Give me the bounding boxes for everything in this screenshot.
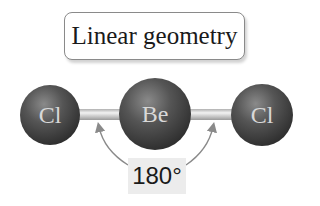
atom-be-center: Be	[119, 78, 191, 150]
bond-right	[186, 109, 236, 120]
bond-angle-label: 180°	[128, 158, 186, 194]
geometry-title-label: Linear geometry	[64, 12, 245, 60]
atom-cl-right: Cl	[231, 84, 293, 146]
angle-arrow-right-icon	[186, 127, 213, 165]
atom-be-label: Be	[142, 101, 169, 127]
angle-arrow-left-icon	[99, 127, 128, 165]
atom-cl-right-label: Cl	[251, 102, 274, 128]
bond-left	[76, 109, 126, 120]
atom-cl-left-label: Cl	[39, 102, 62, 128]
atom-cl-left: Cl	[20, 85, 80, 145]
